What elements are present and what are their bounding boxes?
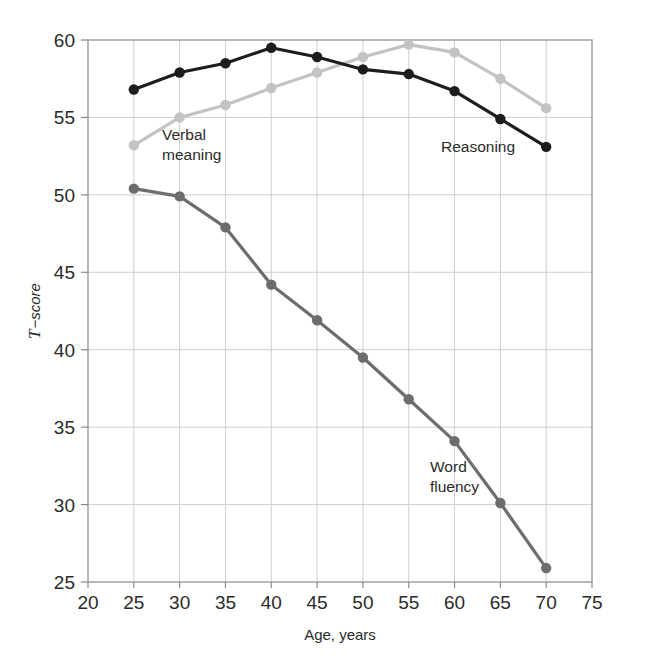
- data-point-marker: [312, 67, 322, 77]
- data-point-marker: [358, 52, 368, 62]
- data-point-marker: [495, 114, 505, 124]
- y-tick-label: 25: [54, 572, 75, 593]
- annotation-line: meaning: [162, 146, 221, 163]
- y-tick-label: 60: [54, 30, 75, 51]
- data-point-marker: [129, 84, 139, 94]
- annotation-line: fluency: [430, 478, 479, 495]
- y-axis-title: T−score: [25, 283, 44, 339]
- data-point-marker: [266, 43, 276, 53]
- x-tick-label: 20: [77, 592, 98, 613]
- data-point-marker: [541, 563, 551, 573]
- data-point-marker: [266, 83, 276, 93]
- x-tick-label: 30: [169, 592, 190, 613]
- x-tick-label: 70: [536, 592, 557, 613]
- data-point-marker: [404, 39, 414, 49]
- y-tick-label: 30: [54, 495, 75, 516]
- chart-container: 202530354045505560657075 253035404550556…: [0, 0, 653, 663]
- x-tick-label: 35: [215, 592, 236, 613]
- data-point-marker: [174, 112, 184, 122]
- data-point-marker: [495, 498, 505, 508]
- x-axis-title-group: Age, years: [304, 626, 376, 643]
- data-point-marker: [312, 315, 322, 325]
- data-point-marker: [174, 191, 184, 201]
- data-point-marker: [449, 436, 459, 446]
- data-point-marker: [541, 142, 551, 152]
- data-point-marker: [129, 140, 139, 150]
- data-point-marker: [220, 222, 230, 232]
- data-point-marker: [449, 86, 459, 96]
- x-axis-title: Age, years: [304, 626, 376, 643]
- x-tick-label: 45: [307, 592, 328, 613]
- y-axis-title-rest: −score: [26, 283, 43, 328]
- x-tick-label: 65: [490, 592, 511, 613]
- y-tick-label: 40: [54, 340, 75, 361]
- data-point-marker: [358, 64, 368, 74]
- data-point-marker: [541, 103, 551, 113]
- y-tick-label: 55: [54, 107, 75, 128]
- line-chart: 202530354045505560657075 253035404550556…: [0, 0, 653, 663]
- data-point-marker: [404, 69, 414, 79]
- x-tick-label: 55: [398, 592, 419, 613]
- x-tick-label: 25: [123, 592, 144, 613]
- y-axis-title-group: T−score: [25, 283, 44, 339]
- y-tick-label: 45: [54, 262, 75, 283]
- data-point-marker: [404, 394, 414, 404]
- x-tick-label: 50: [352, 592, 373, 613]
- data-point-marker: [495, 74, 505, 84]
- y-tick-label: 35: [54, 417, 75, 438]
- annotation-line: Word: [430, 458, 467, 475]
- x-tick-label: 75: [581, 592, 602, 613]
- data-point-marker: [129, 183, 139, 193]
- annotation-line: Reasoning: [441, 138, 515, 155]
- x-tick-label: 40: [261, 592, 282, 613]
- x-tick-label: 60: [444, 592, 465, 613]
- data-point-marker: [358, 352, 368, 362]
- y-tick-label: 50: [54, 185, 75, 206]
- data-point-marker: [266, 279, 276, 289]
- y-axis-title-symbol: T: [25, 328, 44, 339]
- data-point-marker: [312, 52, 322, 62]
- annotation-line: Verbal: [162, 126, 206, 143]
- data-point-marker: [220, 100, 230, 110]
- data-point-marker: [220, 58, 230, 68]
- chart-background: [0, 0, 653, 663]
- data-point-marker: [449, 47, 459, 57]
- data-point-marker: [174, 67, 184, 77]
- annotation-reasoning: Reasoning: [441, 138, 515, 155]
